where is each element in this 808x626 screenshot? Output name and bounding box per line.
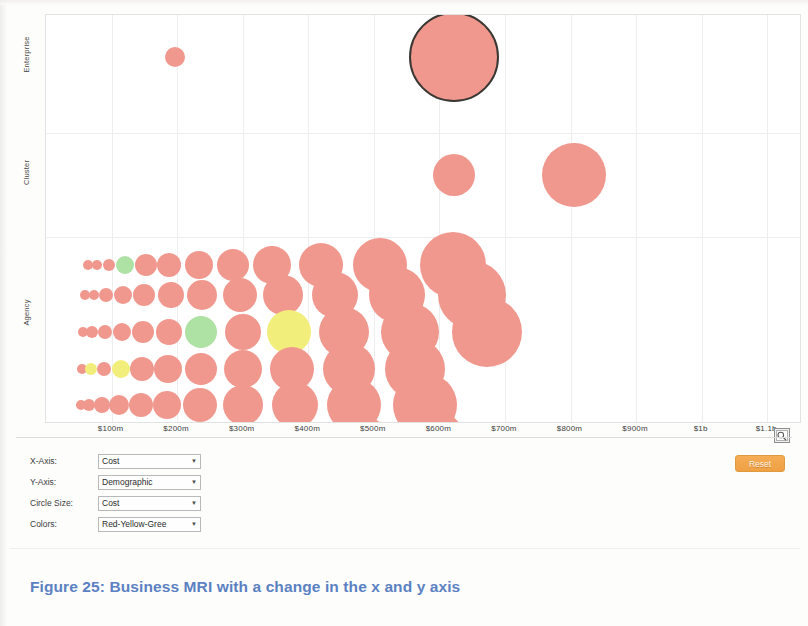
control-row: X-Axis:Cost▼	[30, 452, 205, 470]
circle-size-select-value: Cost	[102, 498, 189, 508]
bubble[interactable]	[133, 284, 155, 306]
zoom-region-icon[interactable]	[774, 428, 790, 443]
bubble[interactable]	[85, 363, 97, 375]
scan-edge-left	[0, 0, 7, 626]
bubble[interactable]	[113, 323, 131, 341]
gridline-vertical	[702, 15, 703, 422]
x-axis-select-label: X-Axis:	[30, 456, 98, 466]
bubble[interactable]	[103, 259, 115, 271]
bubble[interactable]	[154, 355, 182, 383]
chevron-down-icon[interactable]: ▼	[191, 521, 197, 527]
x-tick-label: $500m	[360, 424, 385, 433]
y-tick-label: Cluster	[22, 142, 31, 204]
bubble[interactable]	[223, 278, 257, 312]
chevron-down-icon[interactable]: ▼	[191, 458, 197, 464]
bubble[interactable]	[433, 154, 475, 196]
circle-size-select-label: Circle Size:	[30, 498, 98, 508]
bubble[interactable]	[225, 314, 261, 350]
gridline-vertical	[636, 15, 637, 422]
bubble[interactable]	[156, 319, 182, 345]
bubble[interactable]	[158, 282, 184, 308]
bubble[interactable]	[272, 382, 318, 423]
bubble[interactable]	[187, 280, 217, 310]
chevron-down-icon[interactable]: ▼	[191, 500, 197, 506]
control-row: Colors:Red-Yellow-Gree▼	[30, 515, 205, 533]
bubble[interactable]	[135, 254, 157, 276]
business-mri-bubble-chart: EnterpriseClusterAgency $100m$200m$300m$…	[16, 8, 792, 440]
colors-select[interactable]: Red-Yellow-Gree▼	[98, 517, 201, 532]
y-tick-label: Enterprise	[22, 24, 31, 86]
chevron-down-icon[interactable]: ▼	[191, 479, 197, 485]
gridline-horizontal	[46, 133, 800, 134]
bubble[interactable]	[89, 290, 99, 300]
bubble[interactable]	[114, 286, 132, 304]
bubble[interactable]	[185, 251, 213, 279]
bubble[interactable]	[223, 422, 265, 423]
bubble[interactable]	[183, 388, 217, 422]
bubble[interactable]	[130, 357, 154, 381]
colors-select-label: Colors:	[30, 519, 98, 529]
bubble[interactable]	[263, 275, 303, 315]
bubble[interactable]	[217, 249, 249, 281]
bubble[interactable]	[157, 253, 181, 277]
bubble[interactable]	[109, 395, 129, 415]
bubble[interactable]	[129, 393, 153, 417]
bubble[interactable]	[94, 397, 110, 413]
reset-button-label: Reset	[749, 459, 771, 469]
gridline-vertical	[571, 15, 572, 422]
bubble[interactable]	[97, 362, 111, 376]
bubble[interactable]	[116, 256, 134, 274]
control-row: Circle Size:Cost▼	[30, 494, 205, 512]
axis-baseline-divider	[16, 437, 792, 438]
gridline-horizontal	[46, 237, 800, 238]
x-tick-label: $900m	[622, 424, 647, 433]
bubble[interactable]	[223, 385, 263, 423]
reset-button[interactable]: Reset	[735, 455, 785, 472]
x-tick-label: $600m	[426, 424, 451, 433]
x-tick-label: $1b	[694, 424, 708, 433]
x-tick-label: $700m	[491, 424, 516, 433]
bubble[interactable]	[165, 47, 185, 67]
y-axis: EnterpriseClusterAgency	[16, 14, 45, 423]
x-tick-label: $100m	[98, 424, 123, 433]
bubble[interactable]	[98, 325, 112, 339]
colors-select-value: Red-Yellow-Gree	[102, 519, 189, 529]
bubble[interactable]	[112, 360, 130, 378]
x-tick-label: $800m	[557, 424, 582, 433]
chart-controls-panel: X-Axis:Cost▼Y-Axis:Demographic▼Circle Si…	[30, 452, 205, 536]
x-tick-label: $200m	[163, 424, 188, 433]
bubble[interactable]	[185, 353, 217, 385]
bubble[interactable]	[92, 260, 102, 270]
control-row: Y-Axis:Demographic▼	[30, 473, 205, 491]
bubble[interactable]	[132, 321, 154, 343]
circle-size-select[interactable]: Cost▼	[98, 496, 201, 511]
bubble[interactable]	[452, 297, 522, 367]
x-tick-label: $400m	[295, 424, 320, 433]
bubble[interactable]	[224, 350, 262, 388]
y-tick-label: Agency	[22, 282, 31, 344]
gridline-vertical	[112, 15, 113, 422]
y-axis-select-label: Y-Axis:	[30, 477, 98, 487]
bubble[interactable]	[409, 14, 499, 102]
x-axis-select[interactable]: Cost▼	[98, 454, 201, 469]
figure-caption: Figure 25: Business MRI with a change in…	[30, 578, 460, 596]
scan-edge-top	[0, 0, 808, 5]
x-axis-select-value: Cost	[102, 456, 189, 466]
y-axis-select-value: Demographic	[102, 477, 189, 487]
caption-divider	[10, 548, 800, 549]
bubble[interactable]	[185, 316, 217, 348]
bubble[interactable]	[86, 326, 98, 338]
y-axis-select[interactable]: Demographic▼	[98, 475, 201, 490]
plot-area[interactable]	[45, 14, 801, 423]
x-tick-label: $300m	[229, 424, 254, 433]
bubble[interactable]	[542, 143, 606, 207]
gridline-vertical	[767, 15, 768, 422]
